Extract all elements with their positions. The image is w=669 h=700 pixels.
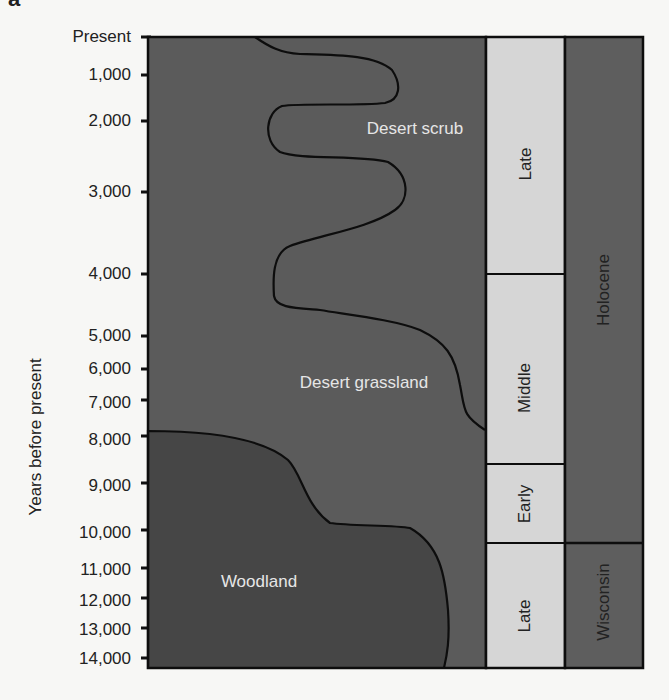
epoch-label-holocene: Holocene	[594, 254, 614, 326]
epoch-label-wisconsin: Wisconsin	[594, 563, 614, 640]
subepoch-label-middle-holocene: Middle	[515, 363, 535, 413]
subepoch-label-late-holocene: Late	[516, 147, 536, 180]
figure: a Years before present Present 1,000 2,0…	[0, 0, 669, 700]
subepoch-label-late-wisconsin: Late	[515, 599, 535, 632]
region-label-desert-scrub: Desert scrub	[367, 119, 463, 139]
subepoch-label-early-holocene: Early	[515, 485, 535, 524]
vegetation-plot	[0, 0, 669, 700]
subepoch-column	[486, 37, 565, 668]
region-label-woodland: Woodland	[221, 572, 297, 592]
region-label-desert-grassland: Desert grassland	[300, 373, 429, 393]
